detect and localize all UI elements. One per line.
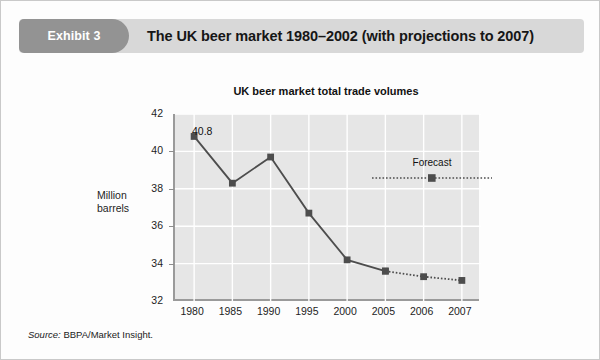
- y-tick-mark: [169, 189, 174, 190]
- exhibit-number-tab: Exhibit 3: [19, 19, 129, 53]
- x-tick-label: 1980: [171, 305, 213, 317]
- y-tick-label: 38: [135, 182, 163, 194]
- chart-series: [175, 114, 481, 301]
- y-tick-mark: [169, 151, 174, 152]
- x-tick-label: 2007: [439, 305, 481, 317]
- plot-area: [173, 114, 479, 301]
- x-tick-label: 2000: [324, 305, 366, 317]
- y-tick-label: 42: [135, 107, 163, 119]
- x-tick-label: 1985: [209, 305, 251, 317]
- forecast-legend-line: [372, 171, 492, 185]
- y-tick-label: 40: [135, 144, 163, 156]
- chart-title: UK beer market total trade volumes: [173, 85, 479, 97]
- y-tick-label: 32: [135, 294, 163, 306]
- y-tick-mark: [169, 264, 174, 265]
- x-tick-label: 2005: [362, 305, 404, 317]
- source-note: Source: BBPA/Market Insight.: [28, 329, 153, 340]
- y-tick-label: 34: [135, 257, 163, 269]
- x-tick-label: 1990: [248, 305, 290, 317]
- y-tick-label: 36: [135, 219, 163, 231]
- x-tick-label: 2006: [401, 305, 443, 317]
- exhibit-header-bar: Exhibit 3 The UK beer market 1980–2002 (…: [19, 19, 584, 53]
- x-tick-label: 1995: [286, 305, 328, 317]
- source-prefix: Source:: [28, 329, 61, 340]
- data-point-label-1980: 40.8: [192, 125, 212, 137]
- exhibit-title: The UK beer market 1980–2002 (with proje…: [147, 19, 534, 53]
- forecast-legend-label: Forecast: [397, 157, 467, 168]
- source-text: BBPA/Market Insight.: [63, 329, 153, 340]
- exhibit-card: Exhibit 3 The UK beer market 1980–2002 (…: [0, 0, 600, 360]
- y-tick-mark: [169, 226, 174, 227]
